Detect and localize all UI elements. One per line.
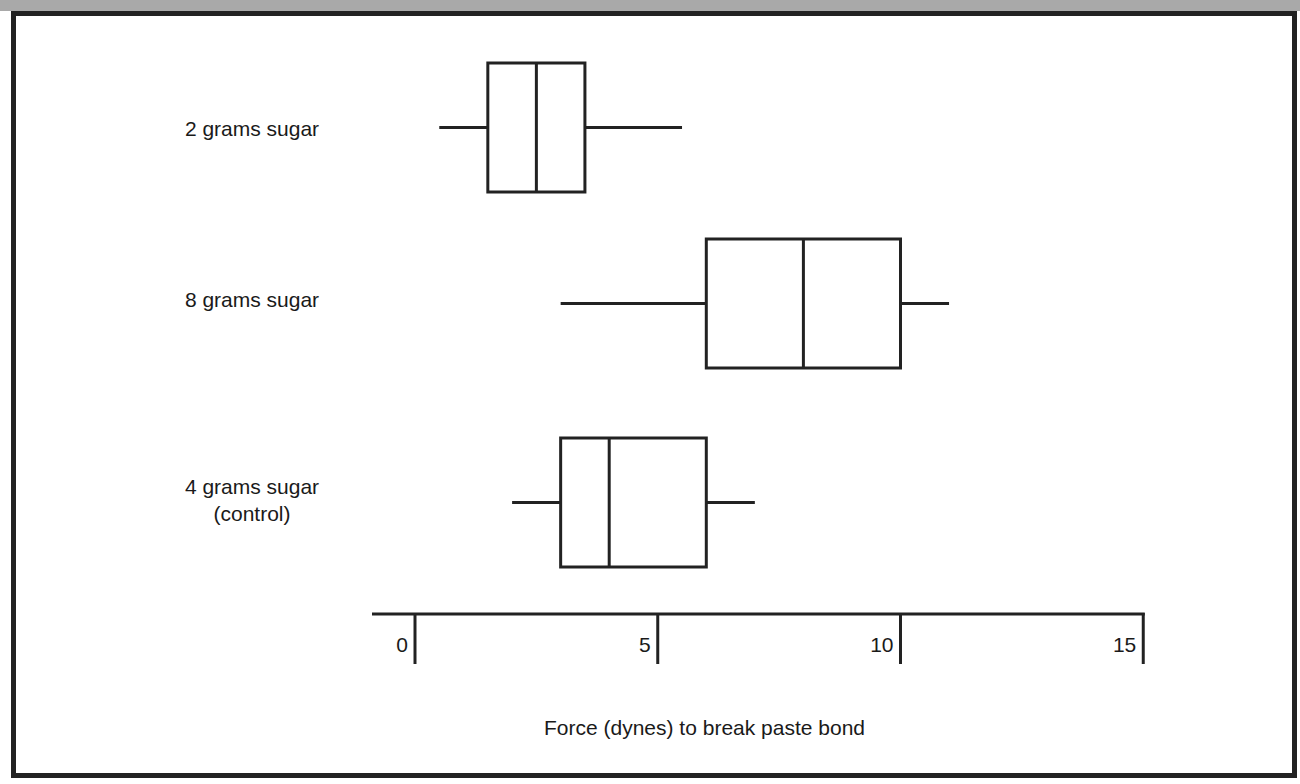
iqr-box bbox=[561, 438, 707, 567]
x-tick-label: 15 bbox=[1113, 633, 1136, 657]
boxplot-area bbox=[0, 0, 1300, 784]
x-tick-label: 10 bbox=[870, 633, 893, 657]
x-tick-label: 0 bbox=[396, 633, 408, 657]
x-tick-label: 5 bbox=[639, 633, 651, 657]
x-axis-title: Force (dynes) to break paste bond bbox=[544, 716, 865, 740]
